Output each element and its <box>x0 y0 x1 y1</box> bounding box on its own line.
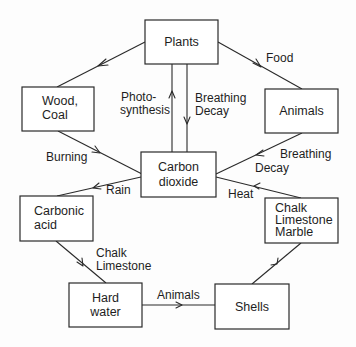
arrowhead-icon <box>271 258 278 265</box>
node-label: Coal <box>42 108 68 122</box>
node-hard-water: Hard water <box>69 283 142 327</box>
edge-plants-to-animals <box>218 42 302 89</box>
edge-hard-water-to-shells <box>142 302 215 308</box>
carbon-cycle-diagram: Plants Wood, Coal Animals Carbon dioxide… <box>0 0 356 347</box>
edge-plants-to-wood-coal <box>57 42 145 87</box>
node-label: Hard <box>92 291 119 305</box>
edge-shells-to-chalk <box>252 243 301 284</box>
node-shells: Shells <box>215 284 289 329</box>
diagram-svg: Plants Wood, Coal Animals Carbon dioxide… <box>0 0 356 347</box>
edge-label-burning: Burning <box>46 150 87 164</box>
edge-plants-to-co2 <box>184 64 190 152</box>
edge-label-rain: Rain <box>106 183 131 197</box>
node-label: dioxide <box>159 175 199 189</box>
node-label: Shells <box>235 300 269 314</box>
node-chalk-limestone-marble: Chalk Limestone Marble <box>265 198 338 243</box>
node-label: Carbon <box>158 160 199 174</box>
node-carbonic-acid: Carbonic acid <box>20 196 93 241</box>
arrowhead-icon <box>98 59 108 66</box>
edge-label-chalk-limestone: Chalk <box>96 246 128 260</box>
node-wood-coal: Wood, Coal <box>22 87 94 131</box>
edge-label-breathing-decay-animals: Breathing <box>280 147 331 161</box>
edge-label-breathing-decay-plants: Decay <box>195 104 229 118</box>
node-label: Animals <box>279 104 323 118</box>
node-label: acid <box>34 218 57 232</box>
edge-label-photosynthesis: synthesis <box>120 103 170 117</box>
node-label: water <box>89 305 121 319</box>
edge-label-photosynthesis: Photo- <box>121 90 156 104</box>
edge-label-breathing-decay-plants: Breathing <box>195 91 246 105</box>
node-label: Wood, <box>42 94 78 108</box>
node-plants: Plants <box>145 20 218 64</box>
edge-label-breathing-decay-animals: Decay <box>255 161 289 175</box>
node-label: Marble <box>275 225 313 239</box>
edge-label-food: Food <box>266 51 293 65</box>
node-label: Plants <box>164 35 199 49</box>
edge-label-heat: Heat <box>228 187 254 201</box>
node-label: Carbonic <box>34 204 84 218</box>
node-carbon-dioxide: Carbon dioxide <box>141 152 216 197</box>
arrowhead-icon <box>253 59 261 67</box>
node-animals: Animals <box>265 89 338 133</box>
edge-label-animals: Animals <box>157 288 200 302</box>
edge-label-chalk-limestone: Limestone <box>96 259 152 273</box>
